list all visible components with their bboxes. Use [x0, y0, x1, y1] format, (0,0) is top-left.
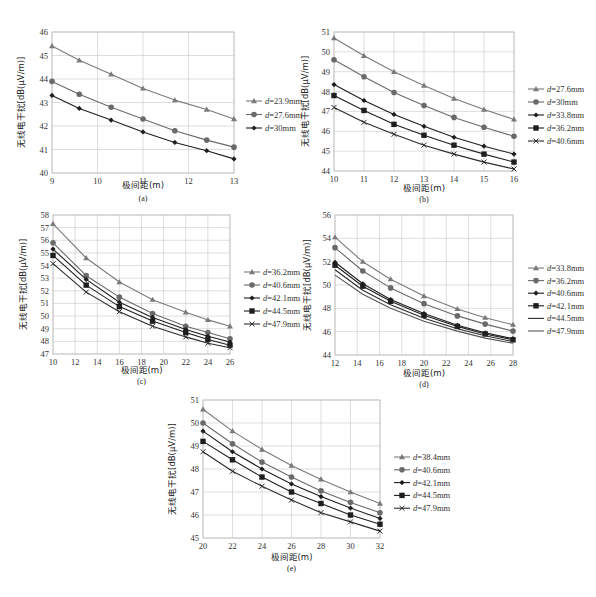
triangle-marker-icon: [361, 53, 367, 58]
circle-marker-icon: [200, 420, 206, 426]
y-tick-label: 41: [40, 145, 49, 155]
x-tick-label: 24: [258, 541, 267, 551]
circle-marker-icon: [117, 294, 123, 300]
y-tick-label: 51: [322, 27, 331, 37]
square-marker-icon: [348, 512, 353, 517]
legend-diamond-icon: [533, 291, 538, 296]
x-axis-label: 极间距(m): [122, 180, 164, 190]
x-tick-label: 10: [49, 357, 58, 367]
legend-label: d=40.6mm: [263, 280, 301, 290]
y-tick-label: 52: [323, 257, 332, 267]
legend-label: d=30mm: [265, 123, 296, 133]
triangle-marker-icon: [200, 406, 206, 411]
x-tick-label: 14: [93, 357, 102, 367]
legend-diamond-icon: [533, 112, 538, 117]
y-tick-label: 46: [323, 327, 332, 337]
circle-marker-icon: [230, 441, 236, 447]
y-tick-label: 49: [322, 67, 331, 77]
x-tick-label: 14: [450, 174, 459, 184]
legend-item: d=40.6mm: [528, 288, 585, 298]
y-tick-label: 51: [41, 298, 50, 308]
x-tick-label: 24: [204, 357, 213, 367]
legend-label: d=27.6mm: [265, 110, 303, 120]
circle-marker-icon: [259, 459, 265, 465]
legend-item: d=47.9mm: [244, 319, 301, 329]
legend-item: d=33.8mm: [528, 110, 585, 120]
x-tick-label: 14: [353, 358, 362, 368]
x-tick-label: 22: [182, 357, 191, 367]
legend-circle-icon: [533, 278, 539, 284]
circle-marker-icon: [360, 268, 366, 274]
diamond-marker-icon: [231, 156, 236, 161]
square-marker-icon: [230, 457, 235, 462]
y-tick-label: 47: [41, 349, 50, 359]
circle-marker-icon: [421, 301, 427, 307]
triangle-marker-icon: [332, 234, 338, 239]
circle-marker-icon: [231, 144, 237, 150]
diamond-marker-icon: [451, 135, 456, 140]
triangle-marker-icon: [289, 463, 295, 468]
x-tick-label: 30: [346, 541, 355, 551]
circle-marker-icon: [361, 74, 367, 80]
circle-marker-icon: [377, 510, 383, 516]
x-tick-label: 32: [376, 541, 385, 551]
diamond-marker-icon: [391, 112, 396, 117]
legend-square-icon: [249, 308, 254, 313]
y-tick-label: 56: [323, 210, 332, 220]
diamond-marker-icon: [361, 98, 366, 103]
x-axis-label: 极间距(m): [403, 183, 445, 193]
legend-circle-icon: [249, 282, 255, 288]
legend-item: d=44.5mm: [528, 313, 585, 323]
x-tick-label: 16: [375, 358, 384, 368]
circle-marker-icon: [318, 488, 324, 494]
circle-marker-icon: [50, 240, 56, 246]
legend-item: d=30mm: [528, 97, 578, 107]
x-tick-label: 12: [331, 358, 340, 368]
y-tick-label: 40: [40, 168, 49, 178]
x-tick-label: 26: [287, 541, 296, 551]
y-tick-label: 54: [323, 233, 332, 243]
x-tick-label: 12: [184, 176, 193, 186]
circle-marker-icon: [481, 125, 487, 131]
y-tick-label: 44: [40, 74, 49, 84]
x-tick-label: 26: [487, 358, 496, 368]
y-tick-label: 58: [41, 210, 50, 220]
diamond-marker-icon: [77, 106, 82, 111]
y-tick-label: 52: [41, 286, 50, 296]
square-marker-icon: [360, 283, 365, 288]
triangle-marker-icon: [150, 297, 156, 302]
circle-marker-icon: [332, 245, 338, 251]
legend-item: d=47.9mm: [528, 326, 585, 336]
circle-marker-icon: [388, 285, 394, 291]
x-tick-label: 28: [317, 541, 326, 551]
y-tick-label: 56: [41, 235, 50, 245]
diamond-marker-icon: [481, 144, 486, 149]
x-tick-label: 10: [330, 174, 339, 184]
legend-label: d=47.9mm: [263, 319, 301, 329]
triangle-marker-icon: [388, 276, 394, 281]
circle-marker-icon: [289, 474, 295, 480]
chart-d: 44464850525456121416182022242628极间距(m)无线…: [302, 210, 585, 389]
chart-caption: (a): [139, 194, 148, 203]
x-tick-label: 11: [360, 174, 368, 184]
legend-circle-icon: [533, 99, 539, 105]
x-tick-label: 16: [510, 174, 519, 184]
legend-item: d=40.6mm: [528, 136, 585, 146]
circle-marker-icon: [482, 321, 488, 327]
y-tick-label: 49: [191, 441, 200, 451]
legend-label: d=40.6mm: [547, 288, 585, 298]
square-marker-icon: [150, 318, 155, 323]
legend-diamond-icon: [251, 125, 256, 130]
legend-label: d=36.2mm: [547, 276, 585, 286]
y-axis-label: 无线电干扰[dB(μV/m)]: [302, 239, 312, 331]
diamond-marker-icon: [109, 118, 114, 123]
legend-item: d=40.6mm: [394, 465, 451, 475]
legend-item: d=23.9mm: [246, 96, 303, 106]
legend-square-icon: [533, 303, 538, 308]
circle-marker-icon: [421, 103, 427, 109]
y-tick-label: 45: [40, 51, 49, 61]
legend-label: d=47.9mm: [413, 503, 451, 513]
y-tick-label: 48: [191, 464, 200, 474]
chart-e: 4546474849505120222426283032极间距(m)无线电干扰[…: [167, 395, 451, 573]
legend-label: d=44.5mm: [413, 490, 451, 500]
